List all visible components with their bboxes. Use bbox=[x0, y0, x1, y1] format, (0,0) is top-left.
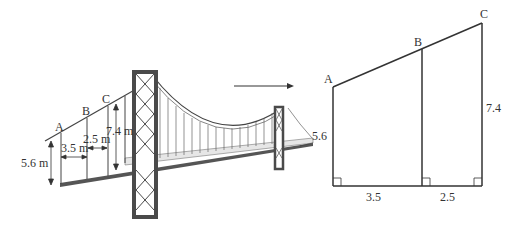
bridge-diagram: A B C 5.6 m 3.5 m 2.5 m 7.4 bbox=[0, 0, 519, 227]
model-label-b: B bbox=[414, 35, 422, 49]
model-base-right: 2.5 bbox=[440, 190, 455, 204]
bridge-label-a: A bbox=[55, 120, 64, 134]
right-angle-a bbox=[333, 178, 341, 186]
right-tower bbox=[275, 107, 283, 169]
far-cable bbox=[288, 108, 312, 138]
model-base-left: 3.5 bbox=[366, 190, 381, 204]
right-angle-b bbox=[422, 178, 430, 186]
bridge-label-b: B bbox=[82, 104, 90, 118]
model-right-height: 7.4 bbox=[486, 101, 501, 115]
trapezoid-model bbox=[333, 23, 482, 186]
height-a-label: 5.6 m bbox=[21, 156, 49, 170]
right-angle-c bbox=[474, 178, 482, 186]
right-arrow-icon bbox=[234, 83, 294, 89]
left-tower bbox=[134, 72, 156, 217]
bridge-illustration: A B C 5.6 m 3.5 m 2.5 m 7.4 bbox=[21, 72, 313, 217]
model-label-c: C bbox=[480, 7, 488, 21]
main-cable bbox=[152, 75, 282, 125]
spacing-bc-dimension bbox=[88, 146, 107, 150]
top-line-abc bbox=[333, 23, 482, 87]
spacing-ab-dimension bbox=[61, 155, 87, 159]
height-a-dimension bbox=[49, 141, 54, 185]
model-label-a: A bbox=[324, 72, 333, 86]
main-cable-2 bbox=[152, 80, 282, 129]
height-c-label: 7.4 m bbox=[106, 124, 134, 138]
bridge-label-c: C bbox=[102, 92, 110, 106]
model-left-height: 5.6 bbox=[312, 129, 327, 143]
